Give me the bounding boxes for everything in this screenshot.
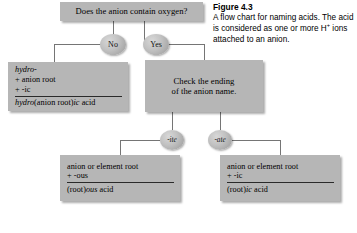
ous-acid-box: anion or element root + -ous (root)ous a…: [60, 155, 180, 201]
hydro-acid-box: hydro- + anion root + -ic hydro(anion ro…: [8, 62, 128, 111]
hydro-line-2: + anion root: [15, 75, 122, 85]
ous-line-2: + -ous: [67, 171, 174, 181]
figure-caption-body: A flow chart for naming acids. The acid …: [213, 13, 355, 45]
ic-line-1: anion or element root: [227, 162, 334, 172]
branch-label-ate: -ate: [214, 136, 225, 144]
hydro-line-3: + -ic: [15, 85, 122, 95]
ous-sum-rule: [67, 182, 174, 183]
ic-line-2: + -ic: [227, 171, 334, 181]
wire-yes-to-check: [169, 45, 204, 61]
question-text: Does the anion contain oxygen?: [76, 6, 188, 16]
check-line-2: of the anion name.: [172, 86, 237, 96]
wire-ate-to-ic: [232, 140, 280, 155]
check-ending-box: Check the ending of the anion name.: [145, 60, 263, 112]
ic-result: (root)ic acid: [227, 185, 334, 195]
figure-flowchart: Does the anion contain oxygen? No Yes hy…: [0, 0, 357, 233]
hydro-sum-rule: [15, 96, 122, 97]
branch-label-ite: -ite: [167, 136, 177, 144]
branch-node-yes: Yes: [143, 34, 169, 55]
check-line-1: Check the ending: [174, 76, 235, 86]
hydro-line-1: hydro-: [15, 65, 122, 75]
branch-label-no: No: [108, 40, 118, 49]
figure-caption: Figure 4.3 A flow chart for naming acids…: [213, 2, 355, 45]
ic-acid-box: anion or element root + -ic (root)ic aci…: [220, 155, 340, 201]
ous-line-1: anion or element root: [67, 162, 174, 172]
ic-sum-rule: [227, 182, 334, 183]
branch-node-ite: -ite: [160, 130, 184, 150]
wire-no-to-hydro: [54, 45, 100, 63]
hydro-result: hydro(anion root)ic acid: [15, 98, 122, 108]
ous-result: (root)ous acid: [67, 185, 174, 195]
branch-node-ate: -ate: [208, 130, 232, 150]
branch-node-no: No: [100, 34, 126, 55]
wire-ite-to-ous: [120, 140, 160, 155]
branch-label-yes: Yes: [150, 40, 162, 49]
question-box: Does the anion contain oxygen?: [60, 2, 203, 21]
figure-caption-title: Figure 4.3: [213, 2, 355, 13]
